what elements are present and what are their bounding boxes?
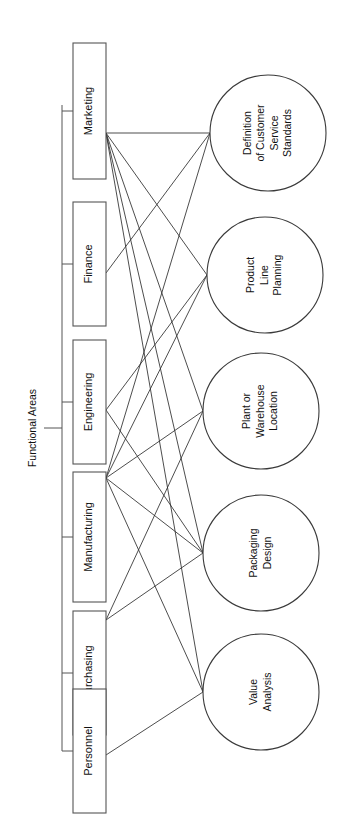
decision-area-circles-group: Definitionof CustomerServiceStandardsPro… bbox=[203, 75, 326, 750]
group-label-layer: Functional Areas bbox=[26, 389, 38, 467]
functional-area-finance[interactable]: Finance bbox=[73, 202, 106, 326]
decision-area-plant-warehouse-location[interactable]: Plant orWarehouseLocation bbox=[203, 353, 319, 469]
functional-area-label-marketing: Marketing bbox=[82, 87, 94, 135]
functional-area-boxes-group: MarketingFinanceEngineeringManufacturing… bbox=[73, 43, 106, 813]
connection-marketing-to-plant-warehouse-location bbox=[106, 133, 203, 411]
functional-area-label-manufacturing: Manufacturing bbox=[82, 502, 94, 572]
connection-engineering-to-product-line-planning bbox=[106, 275, 207, 410]
functional-area-label-engineering: Engineering bbox=[82, 373, 94, 432]
bracket-group bbox=[44, 105, 73, 751]
decision-area-label-plant-warehouse-location-line-0: Plant or bbox=[240, 392, 252, 429]
functional-area-manufacturing[interactable]: Manufacturing bbox=[73, 472, 106, 602]
functional-area-label-personnel: Personnel bbox=[82, 726, 94, 776]
decision-area-label-customer-service-standards-line-3: Standards bbox=[281, 109, 293, 157]
decision-area-label-product-line-planning-line-2: Planning bbox=[271, 254, 283, 295]
decision-area-label-value-analysis-line-0: Value bbox=[247, 679, 259, 705]
decision-area-label-product-line-planning-line-1: Line bbox=[258, 265, 270, 285]
decision-area-label-packaging-design-line-0: Packaging bbox=[247, 528, 259, 577]
functional-area-label-finance: Finance bbox=[82, 244, 94, 283]
decision-area-product-line-planning[interactable]: ProductLinePlanning bbox=[207, 217, 323, 333]
connection-manufacturing-to-customer-service-standards bbox=[106, 133, 210, 478]
functional-area-marketing[interactable]: Marketing bbox=[73, 43, 106, 179]
functional-area-personnel[interactable]: Personnel bbox=[73, 689, 106, 813]
diagram-canvas: MarketingFinanceEngineeringManufacturing… bbox=[0, 0, 355, 839]
decision-area-label-packaging-design-line-1: Design bbox=[261, 536, 273, 569]
functional-area-engineering[interactable]: Engineering bbox=[73, 340, 106, 464]
connection-finance-to-customer-service-standards bbox=[106, 133, 210, 273]
decision-area-customer-service-standards[interactable]: Definitionof CustomerServiceStandards bbox=[210, 75, 326, 191]
group-label-functional-areas: Functional Areas bbox=[26, 389, 38, 467]
decision-area-label-plant-warehouse-location-line-1: Warehouse bbox=[254, 384, 266, 437]
decision-area-label-value-analysis-line-1: Analysis bbox=[261, 672, 273, 711]
decision-area-label-customer-service-standards-line-2: Service bbox=[268, 115, 280, 150]
connection-manufacturing-to-plant-warehouse-location bbox=[106, 411, 203, 478]
decision-area-label-product-line-planning-line-0: Product bbox=[244, 257, 256, 293]
decision-area-value-analysis[interactable]: ValueAnalysis bbox=[203, 634, 319, 750]
connection-engineering-to-packaging-design bbox=[106, 410, 203, 553]
decision-area-packaging-design[interactable]: PackagingDesign bbox=[203, 495, 319, 611]
connection-manufacturing-to-value-analysis bbox=[106, 478, 203, 692]
connection-marketing-to-product-line-planning bbox=[106, 133, 207, 275]
connection-personnel-to-value-analysis bbox=[106, 692, 203, 755]
decision-area-label-customer-service-standards-line-1: of Customer bbox=[254, 104, 266, 162]
decision-area-label-customer-service-standards-line-0: Definition bbox=[241, 111, 253, 155]
connection-lines-group bbox=[106, 133, 210, 755]
connection-purchasing-to-plant-warehouse-location bbox=[106, 411, 203, 620]
functional-areas-diagram: MarketingFinanceEngineeringManufacturing… bbox=[0, 0, 355, 839]
connection-marketing-to-packaging-design bbox=[106, 133, 203, 553]
connection-marketing-to-value-analysis bbox=[106, 133, 203, 692]
decision-area-label-plant-warehouse-location-line-2: Location bbox=[267, 391, 279, 431]
connection-manufacturing-to-product-line-planning bbox=[106, 275, 207, 478]
